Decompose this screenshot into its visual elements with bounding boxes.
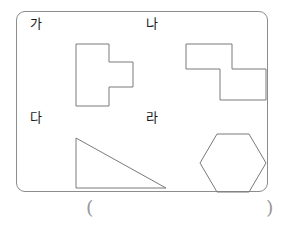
- answer-open-paren: (: [86, 198, 93, 217]
- figure-shape-na: [183, 41, 269, 103]
- answer-row: ( ): [0, 196, 282, 236]
- figure-shape-da: [73, 135, 169, 191]
- figure-shape-ga: [73, 41, 135, 109]
- worksheet-canvas: 가 나 다 라 ( ): [0, 0, 282, 236]
- figure-label-na: 나: [146, 17, 158, 30]
- figure-shape-ra: [197, 131, 269, 195]
- figure-label-da: 다: [30, 111, 42, 124]
- figures-panel: [16, 11, 268, 192]
- answer-close-paren: ): [266, 198, 273, 217]
- figure-label-ra: 라: [146, 111, 158, 124]
- figure-label-ga: 가: [30, 17, 42, 30]
